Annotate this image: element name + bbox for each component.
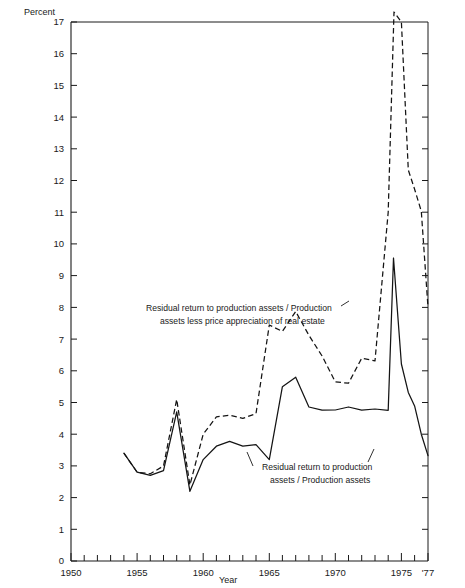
- y-tick-label: 3: [59, 460, 64, 471]
- x-tick-label: 1970: [325, 567, 346, 578]
- line-chart-canvas: 17 16 15 14 13 12 11 10 9 8 7 6 5 4 3 2 …: [0, 0, 465, 588]
- annotation-dashed-line-1: Residual return to production assets / P…: [146, 303, 332, 313]
- annotation-dashed-line-2: assets less price appreciation of real e…: [160, 316, 325, 326]
- y-tick-label: 6: [59, 365, 64, 376]
- y-tick-label: 1: [59, 524, 64, 535]
- annotation-solid-line-2: assets / Production assets: [270, 475, 370, 485]
- x-tick-label: 1965: [259, 567, 280, 578]
- y-tick-label: 5: [59, 397, 64, 408]
- y-tick-label: 0: [59, 555, 64, 566]
- y-tick-label: 10: [53, 238, 64, 249]
- y-tick-label: 9: [59, 270, 64, 281]
- y-axis-title: Percent: [24, 7, 56, 17]
- y-tick-label: 12: [53, 175, 64, 186]
- chart-figure: 17 16 15 14 13 12 11 10 9 8 7 6 5 4 3 2 …: [0, 0, 465, 588]
- x-tick-label: 1960: [193, 567, 214, 578]
- y-tick-label: 13: [53, 143, 64, 154]
- y-tick-label: 4: [59, 429, 64, 440]
- y-tick-label: 15: [53, 80, 64, 91]
- y-tick-label: 2: [59, 492, 64, 503]
- y-tick-label: 16: [53, 48, 64, 59]
- y-tick-label: 11: [54, 207, 64, 218]
- y-tick-label: 7: [59, 334, 64, 345]
- y-tick-label: 8: [59, 302, 64, 313]
- y-tick-label: 17: [53, 16, 64, 27]
- x-tick-label: '77: [422, 567, 434, 578]
- y-tick-label: 14: [53, 112, 64, 123]
- x-tick-label: 1975: [391, 567, 412, 578]
- x-tick-label: 1950: [60, 567, 81, 578]
- x-axis-title: Year: [219, 575, 237, 585]
- x-tick-label: 1955: [127, 567, 148, 578]
- annotation-solid-line-1: Residual return to production: [262, 462, 373, 472]
- chart-background: [0, 0, 465, 588]
